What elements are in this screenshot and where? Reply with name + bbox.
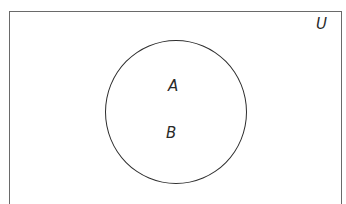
- set-label-a: A: [168, 79, 178, 94]
- set-label-b: B: [166, 126, 176, 141]
- set-circle-a-b: [105, 40, 247, 184]
- universal-set-label: U: [316, 17, 327, 32]
